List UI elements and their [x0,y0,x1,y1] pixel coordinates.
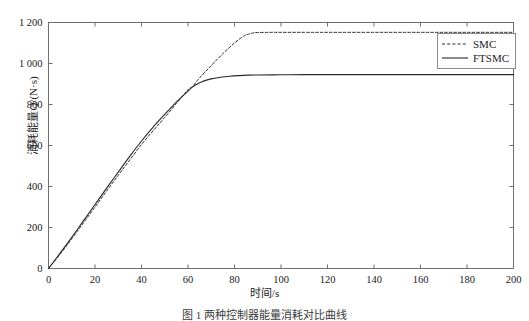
x-tick-label: 140 [366,275,382,286]
chart-legend: SMC FTSMC [437,33,516,69]
legend-label-ftsmc: FTSMC [473,53,509,64]
x-tick-label: 120 [320,275,336,286]
x-tick-label: 100 [273,275,289,286]
y-tick-label: 1 200 [0,17,43,28]
legend-entry-ftsmc: FTSMC [442,51,509,65]
legend-swatch-solid-icon [442,53,468,63]
y-axis-title: 消耗能量Q/(N·s) [28,31,39,201]
y-tick-label: 0 [0,263,43,274]
x-tick-label: 160 [413,275,429,286]
x-tick-label: 60 [183,275,194,286]
x-tick-label: 80 [229,275,240,286]
x-tick-label: 200 [506,275,522,286]
legend-swatch-dashed-icon [442,39,468,49]
figure-caption: 图 1 两种控制器能量消耗对比曲线 [0,309,529,321]
x-tick-label: 40 [136,275,147,286]
x-tick-label: 180 [459,275,475,286]
x-axis-title: 时间/s [0,288,529,299]
legend-label-smc: SMC [473,39,496,50]
x-tick-label: 0 [46,275,51,286]
x-tick-label: 20 [90,275,101,286]
y-tick-label: 200 [0,222,43,233]
legend-entry-smc: SMC [442,37,509,51]
